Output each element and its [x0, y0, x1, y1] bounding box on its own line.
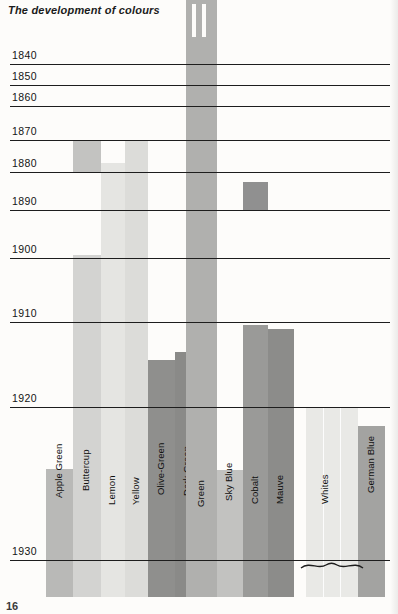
bar-olive-green[interactable]: Olive-Green	[148, 0, 175, 600]
bar-segment	[73, 255, 101, 597]
bar-buttercup[interactable]: Buttercup	[73, 0, 101, 600]
bar-label-sky-blue: Sky Blue	[223, 463, 234, 501]
bar-segment	[186, 0, 217, 597]
bar-lemon[interactable]: Lemon	[101, 0, 125, 600]
gridline-1910	[10, 322, 390, 323]
gridline-1870	[10, 140, 390, 141]
bar-label-german-blue: German Blue	[365, 436, 376, 493]
bar-label-green: Green	[195, 480, 206, 507]
year-label-1880: 1880	[12, 157, 37, 169]
gridline-1890	[10, 210, 390, 211]
gridline-1850	[10, 85, 390, 86]
bar-cobalt[interactable]: Cobalt	[243, 0, 268, 600]
bar-segment	[101, 163, 125, 597]
bar-segment	[243, 325, 268, 597]
bar-german-blue[interactable]: German Blue	[358, 0, 385, 600]
bar-apple-green[interactable]: Apple Green	[46, 0, 73, 600]
gridline-1860	[10, 106, 390, 107]
year-label-1860: 1860	[12, 91, 37, 103]
bar-segment	[268, 329, 294, 597]
gridline-1920	[10, 407, 390, 408]
bar-slot	[202, 4, 206, 37]
bar-label-cobalt: Cobalt	[249, 476, 260, 504]
gridline-1900	[10, 258, 390, 259]
year-label-1920: 1920	[12, 392, 37, 404]
bar-layer: Apple GreenButtercupLemonYellowOlive-Gre…	[0, 0, 398, 600]
year-label-1890: 1890	[12, 195, 37, 207]
page-root: Apple GreenButtercupLemonYellowOlive-Gre…	[0, 0, 398, 614]
bar-slot	[192, 4, 196, 37]
bar-whites[interactable]: Whites	[306, 0, 358, 600]
gridline-1840	[10, 64, 390, 65]
bar-mauve[interactable]: Mauve	[268, 0, 294, 600]
bar-label-mauve: Mauve	[274, 475, 285, 504]
bar-label-whites: Whites	[319, 474, 330, 504]
page-edge-shadow	[390, 0, 398, 614]
bar-label-yellow: Yellow	[130, 477, 141, 505]
year-label-1870: 1870	[12, 125, 37, 137]
page-number: 16	[6, 600, 18, 612]
bar-green[interactable]: Green	[186, 0, 217, 600]
year-label-1910: 1910	[12, 307, 37, 319]
bar-label-buttercup: Buttercup	[80, 449, 91, 491]
year-label-1840: 1840	[12, 49, 37, 61]
year-label-1900: 1900	[12, 243, 37, 255]
year-label-1930: 1930	[12, 545, 37, 557]
chart-canvas: Apple GreenButtercupLemonYellowOlive-Gre…	[0, 0, 398, 600]
bar-label-apple-green: Apple Green	[53, 444, 64, 498]
bar-label-olive-green: Olive-Green	[155, 443, 166, 495]
bar-segment	[243, 182, 268, 210]
bar-segment	[73, 141, 101, 172]
whites-brace-icon	[300, 560, 364, 574]
bar-segment	[125, 140, 148, 597]
bar-sky-blue[interactable]: Sky Blue	[217, 0, 243, 600]
year-label-1850: 1850	[12, 70, 37, 82]
bar-label-lemon: Lemon	[106, 475, 117, 505]
gridline-1880	[10, 172, 390, 173]
page-title: The development of colours	[8, 4, 160, 16]
bar-yellow[interactable]: Yellow	[125, 0, 148, 600]
